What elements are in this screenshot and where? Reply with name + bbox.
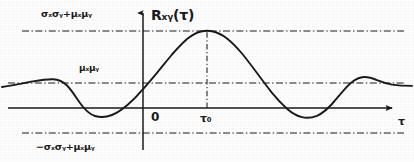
- tau-zero-label: τ₀: [200, 113, 211, 124]
- x-axis-label: τ: [398, 116, 405, 127]
- upper-bound-label: σₓσᵧ+μₓμᵧ: [41, 9, 92, 19]
- correlation-figure: σₓσᵧ+μₓμᵧ μₓμᵧ −σₓσᵧ+μₓμᵧ Rₓᵧ(τ) 0 τ₀ τ: [0, 0, 414, 162]
- mean-product-label: μₓμᵧ: [79, 64, 99, 73]
- lower-bound-label: −σₓσᵧ+μₓμᵧ: [36, 142, 95, 152]
- origin-label: 0: [151, 111, 159, 123]
- y-axis-label: Rₓᵧ(τ): [151, 8, 194, 22]
- figure-canvas: [0, 0, 414, 162]
